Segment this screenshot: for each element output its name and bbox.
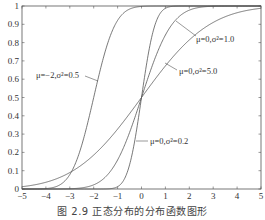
y-tick-label: 0.2 <box>8 147 19 157</box>
y-tick-label: 1 <box>15 1 20 11</box>
series-annotations: μ=0,σ²=0.2μ=0,σ²=1.0μ=0,σ²=5.0μ=−2,σ²=0.… <box>36 21 234 146</box>
x-tick-label: 4 <box>235 191 240 200</box>
y-tick-label: 0.1 <box>8 166 19 176</box>
axis-ticks: −5−4−3−2−101234500.10.20.30.40.50.60.70.… <box>8 1 264 200</box>
y-tick-label: 0.6 <box>8 74 20 84</box>
y-tick-label: 0.9 <box>8 19 20 29</box>
x-tick-label: 0 <box>139 191 144 200</box>
x-tick-label: −2 <box>89 191 99 200</box>
x-tick-label: 1 <box>163 191 168 200</box>
x-tick-label: 2 <box>187 191 192 200</box>
y-tick-label: 0 <box>15 184 20 194</box>
series-label: μ=0,σ²=0.2 <box>150 136 188 146</box>
leader-line <box>165 63 177 70</box>
y-tick-label: 0.8 <box>8 38 20 48</box>
x-tick-label: −3 <box>65 191 75 200</box>
x-tick-label: 5 <box>259 191 264 200</box>
x-tick-label: −1 <box>113 191 123 200</box>
leader-line <box>85 76 98 81</box>
series-label: μ=0,σ²=1.0 <box>196 34 234 44</box>
leader-line <box>176 21 196 36</box>
y-tick-label: 0.4 <box>8 111 20 121</box>
y-tick-label: 0.3 <box>8 129 20 139</box>
y-tick-label: 0.7 <box>8 56 20 66</box>
x-tick-label: −4 <box>41 191 51 200</box>
figure-caption: 图 2.9 正态分布的分布函数图形 <box>0 203 265 218</box>
series-label: μ=−2,σ²=0.5 <box>36 70 79 80</box>
series-label: μ=0,σ²=5.0 <box>179 66 217 76</box>
x-tick-label: 3 <box>211 191 216 200</box>
y-tick-label: 0.5 <box>8 93 20 103</box>
normal-cdf-chart: −5−4−3−2−101234500.10.20.30.40.50.60.70.… <box>0 0 265 200</box>
